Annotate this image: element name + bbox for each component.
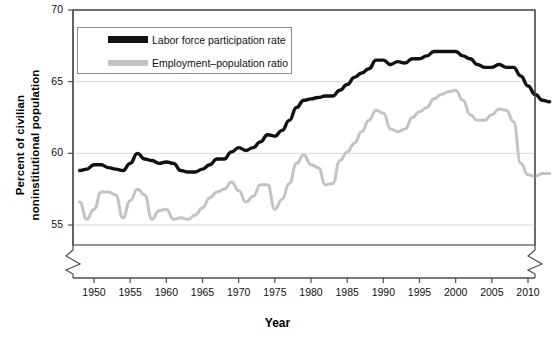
y-tick-label-65: 65 <box>37 75 63 87</box>
x-tick-label-2000: 2000 <box>436 286 476 298</box>
legend-swatch-gray-icon <box>108 60 148 66</box>
x-tick-label-2005: 2005 <box>472 286 512 298</box>
legend-label-employment-population: Employment–population ratio <box>152 57 288 69</box>
y-tick-label-60: 60 <box>37 146 63 158</box>
chart-legend: Labor force participation rate Employmen… <box>77 27 292 74</box>
x-tick-label-1955: 1955 <box>110 286 150 298</box>
x-tick-label-1985: 1985 <box>327 286 367 298</box>
x-tick-label-1990: 1990 <box>363 286 403 298</box>
legend-swatch-black-icon <box>108 36 148 43</box>
x-tick-label-2010: 2010 <box>508 286 548 298</box>
axis-break-icon <box>528 245 542 278</box>
x-tick-label-1965: 1965 <box>183 286 223 298</box>
x-tick-label-1960: 1960 <box>146 286 186 298</box>
y-tick-label-55: 55 <box>37 218 63 230</box>
x-tick-label-1995: 1995 <box>400 286 440 298</box>
series-line-employment-population-ratio <box>80 90 550 219</box>
legend-label-labor-force: Labor force participation rate <box>152 34 286 46</box>
y-tick-label-70: 70 <box>37 3 63 15</box>
legend-item-employment-population: Employment–population ratio <box>78 51 291 74</box>
axis-break-icon <box>66 245 80 278</box>
chart-container: Percent of civilian noninstitutional pop… <box>0 0 555 338</box>
x-tick-label-1975: 1975 <box>255 286 295 298</box>
x-axis-title: Year <box>0 316 555 330</box>
legend-item-labor-force: Labor force participation rate <box>78 28 291 51</box>
x-tick-label-1970: 1970 <box>219 286 259 298</box>
x-tick-label-1950: 1950 <box>74 286 114 298</box>
x-tick-label-1980: 1980 <box>291 286 331 298</box>
